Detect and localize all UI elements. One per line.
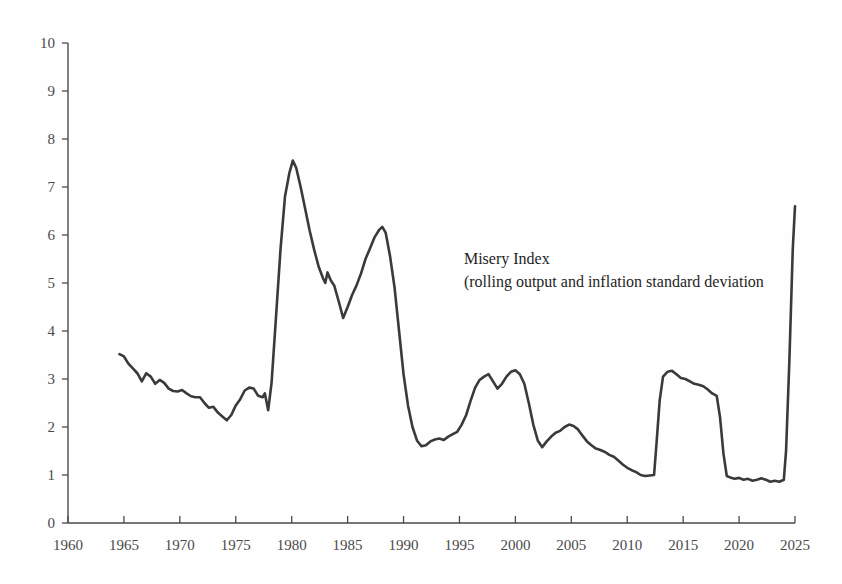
x-tick-label: 2010: [612, 537, 642, 553]
x-tick-label: 2025: [780, 537, 810, 553]
x-tick-label: 1990: [389, 537, 419, 553]
x-axis-ticks: 1960196519701975198019851990199520002005…: [53, 516, 810, 553]
chart-plot-area: 012345678910 196019651970197519801985199…: [0, 0, 842, 584]
y-tick-label: 6: [48, 227, 56, 243]
x-tick-label: 2015: [668, 537, 698, 553]
x-tick-label: 1970: [165, 537, 195, 553]
y-tick-label: 2: [48, 419, 56, 435]
series-annotation-line-1: Misery Index: [464, 250, 550, 268]
misery-index-chart: 012345678910 196019651970197519801985199…: [0, 0, 842, 584]
y-tick-label: 4: [48, 323, 56, 339]
y-tick-label: 3: [48, 371, 56, 387]
y-tick-label: 1: [48, 467, 56, 483]
x-tick-label: 1985: [333, 537, 363, 553]
misery-index-line: [119, 161, 795, 482]
y-tick-label: 5: [48, 275, 56, 291]
x-tick-label: 1965: [109, 537, 139, 553]
y-tick-label: 8: [48, 131, 56, 147]
x-tick-label: 1960: [53, 537, 83, 553]
x-tick-label: 1980: [277, 537, 307, 553]
x-tick-label: 1975: [221, 537, 251, 553]
x-tick-label: 2005: [556, 537, 586, 553]
x-tick-label: 2020: [724, 537, 754, 553]
y-tick-label: 7: [48, 179, 56, 195]
series-annotation-line-2: (rolling output and inflation standard d…: [464, 273, 764, 291]
y-tick-label: 0: [48, 515, 56, 531]
y-tick-label: 9: [48, 83, 56, 99]
x-tick-label: 2000: [500, 537, 530, 553]
y-tick-label: 10: [40, 35, 55, 51]
x-tick-label: 1995: [444, 537, 474, 553]
y-axis-ticks: 012345678910: [40, 35, 68, 531]
